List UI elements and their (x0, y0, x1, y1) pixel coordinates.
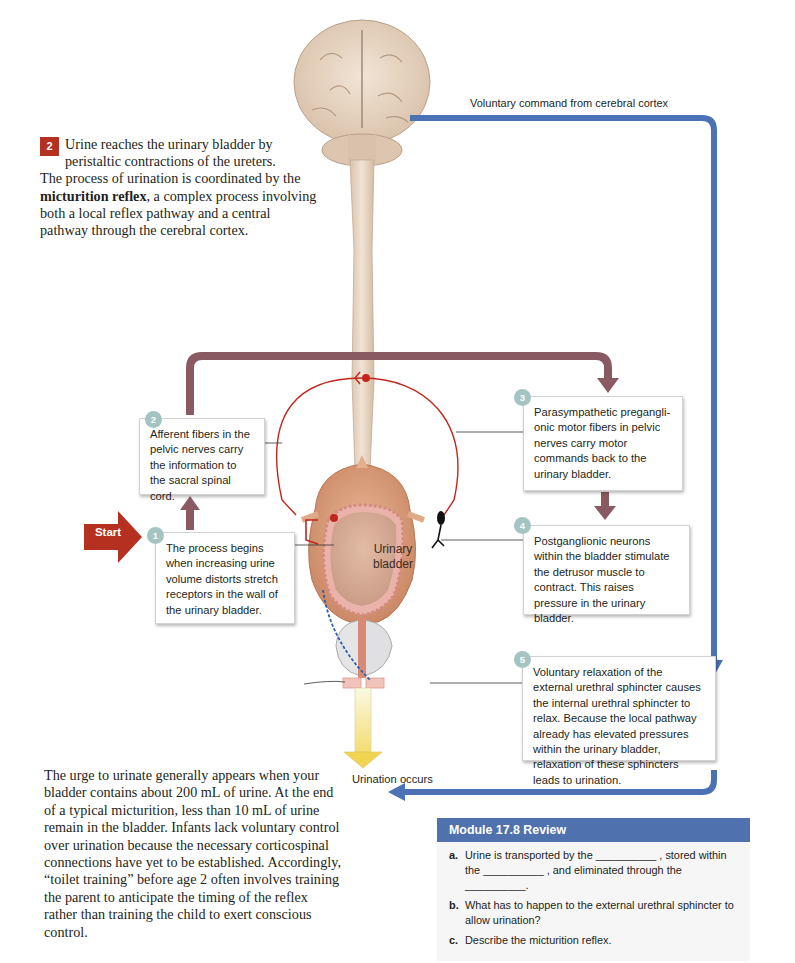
review-question-c: c. Describe the micturition reflex. (449, 933, 740, 948)
step-1-box: The process begins when increasing urine… (155, 532, 295, 624)
urethral-sphincters-illustration (336, 618, 392, 688)
module-review-box: Module 17.8 Review a. Urine is transport… (437, 818, 750, 961)
bladder-label-line-1: Urinary (358, 542, 428, 557)
body-paragraph: The urge to urinate generally appears wh… (44, 767, 344, 941)
intro-text-before: The process of urination is coordinated … (40, 170, 300, 186)
question-letter: a. (449, 848, 465, 893)
intro-paragraph: 2 Urine reaches the urinary bladder by p… (40, 136, 320, 239)
step-4-badge: 4 (514, 517, 531, 534)
question-letter: b. (449, 898, 465, 928)
efferent-arrow-head-4 (594, 506, 616, 520)
question-text: What has to happen to the external ureth… (465, 898, 740, 928)
section-badge: 2 (40, 137, 59, 156)
urine-flow-arrow (344, 688, 382, 768)
voluntary-command-label: Voluntary command from cerebral cortex (470, 97, 668, 109)
efferent-arrow-head-3 (597, 378, 619, 393)
bladder-label-line-2: bladder (358, 557, 428, 572)
step-5-box: Voluntary relaxation of the external ure… (522, 656, 716, 761)
intro-line-2: peristaltic contractions of the ureters. (40, 153, 320, 170)
step-3-badge: 3 (514, 389, 531, 406)
urination-arrow-head-left (388, 783, 405, 801)
step-2-badge: 2 (145, 411, 162, 428)
intro-line-1: Urine reaches the urinary bladder by (40, 136, 320, 153)
step-5-badge: 5 (514, 651, 531, 668)
step-4-box: Postganglionic neurons within the bladde… (523, 525, 690, 615)
step-1-badge: 1 (147, 527, 164, 544)
question-text: Describe the micturition reflex. (465, 933, 611, 948)
start-label: Start (86, 526, 130, 538)
urinary-bladder-label: Urinary bladder (358, 542, 428, 572)
question-letter: c. (449, 933, 465, 948)
key-term-micturition-reflex: micturition reflex (40, 188, 147, 204)
urination-occurs-label: Urination occurs (352, 773, 433, 785)
afferent-arrow-head (180, 496, 200, 510)
review-title: Module 17.8 Review (437, 818, 750, 842)
review-question-b: b. What has to happen to the external ur… (449, 898, 740, 928)
review-question-a: a. Urine is transported by the _________… (449, 848, 740, 893)
question-text: Urine is transported by the __________ ,… (465, 848, 740, 893)
step-3-box: Parasympathetic pregangli-onic motor fib… (523, 396, 683, 491)
step-2-box: Afferent fibers in the pelvic nerves car… (139, 418, 265, 495)
interneuron-synapse (362, 374, 370, 382)
review-questions: a. Urine is transported by the _________… (437, 842, 750, 961)
